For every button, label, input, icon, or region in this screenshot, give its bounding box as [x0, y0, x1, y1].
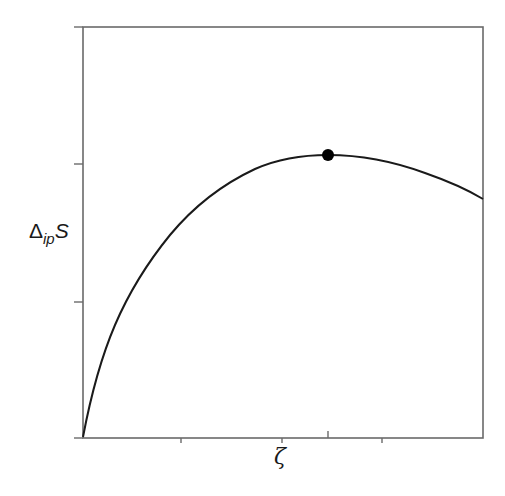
x-axis-label: ζ	[274, 444, 286, 469]
y-axis-label: ΔipS	[29, 219, 69, 243]
y-axis-label-symbol: S	[55, 219, 69, 242]
chart-canvas	[0, 0, 505, 496]
y-axis-label-subscript: ip	[43, 230, 55, 247]
y-axis-label-delta: Δ	[29, 219, 43, 242]
maximum-marker	[322, 149, 334, 161]
entropy-curve	[83, 155, 483, 437]
x-axis-ticks	[181, 431, 382, 443]
plot-frame	[83, 27, 483, 438]
y-axis-ticks	[74, 27, 83, 438]
